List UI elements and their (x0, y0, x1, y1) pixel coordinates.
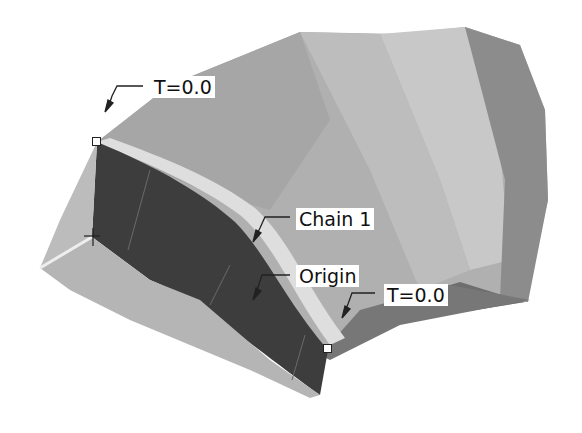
label-t-start-bottom[interactable]: T=0.0 (384, 284, 448, 306)
leader-t-top (105, 86, 143, 112)
start-point-marker-bottom[interactable] (323, 344, 332, 353)
label-chain[interactable]: Chain 1 (296, 208, 374, 230)
label-t-start-top[interactable]: T=0.0 (151, 76, 215, 98)
cad-surface-view (0, 0, 582, 433)
label-origin[interactable]: Origin (296, 265, 359, 287)
start-point-marker-top[interactable] (92, 137, 101, 146)
